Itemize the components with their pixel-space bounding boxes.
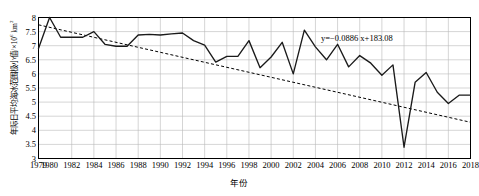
x-tick-label: 1986: [108, 160, 125, 170]
data-line-sea-ice-minimum: [39, 18, 471, 148]
x-tick-label: 1982: [63, 160, 80, 170]
x-tick-label: 2002: [285, 160, 302, 170]
x-tick-label: 2004: [307, 160, 324, 170]
x-tick-label: 2014: [418, 160, 435, 170]
x-tick-label: 1980: [41, 160, 58, 170]
x-tick-label: 1984: [85, 160, 102, 170]
x-tick-label: 2006: [329, 160, 346, 170]
trend-equation-label: y=−0.0886 x+183.08: [321, 33, 393, 43]
trend-line: [39, 25, 471, 122]
x-tick-label: 1996: [218, 160, 235, 170]
x-tick-label: 1994: [196, 160, 213, 170]
x-tick-label: 2012: [396, 160, 413, 170]
x-tick-label: 2016: [440, 160, 457, 170]
x-tick-label: 1998: [240, 160, 257, 170]
x-axis-tick-labels: 1979198019821984198619881990199219941996…: [0, 160, 478, 174]
x-tick-label: 2000: [263, 160, 280, 170]
x-tick-label: 1990: [152, 160, 169, 170]
x-tick-label: 2018: [462, 160, 479, 170]
x-tick-label: 1992: [174, 160, 191, 170]
x-tick-label: 2008: [351, 160, 368, 170]
x-tick-label: 1988: [130, 160, 147, 170]
x-axis-title: 年份: [0, 176, 478, 188]
x-tick-label: 2010: [373, 160, 390, 170]
